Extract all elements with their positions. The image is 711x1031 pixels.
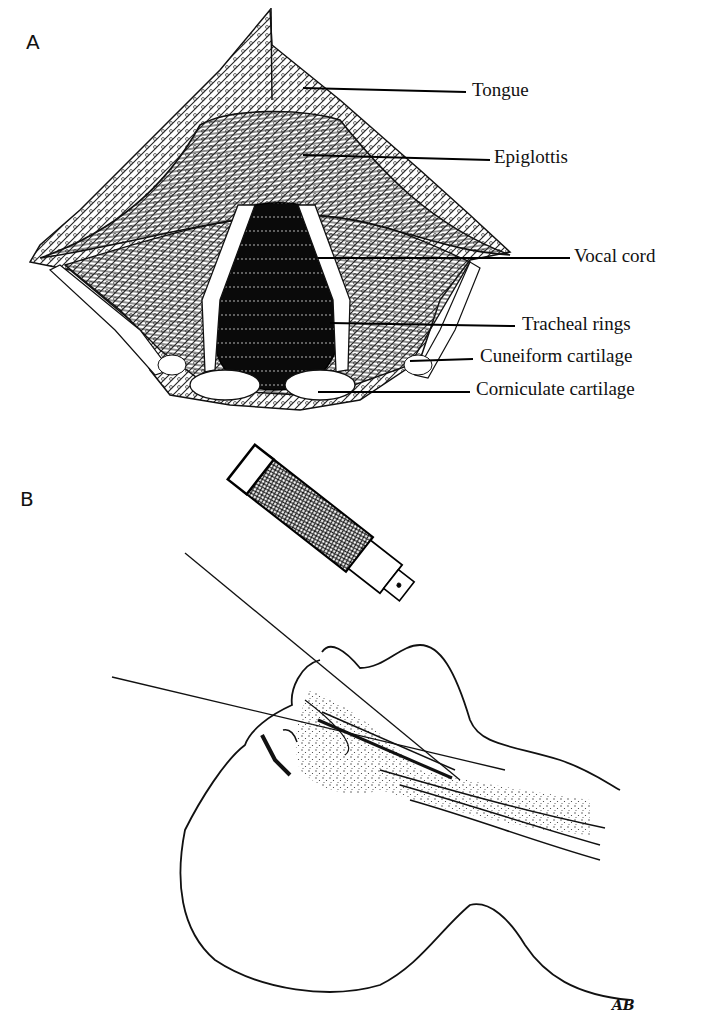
artist-signature: AB (612, 997, 635, 1013)
label-tongue: Tongue (472, 79, 529, 101)
label-cuneiform-cartilage: Cuneiform cartilage (480, 345, 632, 367)
label-tracheal-rings: Tracheal rings (522, 313, 631, 335)
figure-artwork (0, 0, 711, 1031)
label-epiglottis: Epiglottis (494, 146, 568, 168)
label-vocal-cord: Vocal cord (574, 245, 655, 267)
label-corniculate-cartilage: Corniculate cartilage (476, 378, 635, 400)
laryngoscope (228, 445, 421, 609)
intubation-illustration (112, 445, 630, 1000)
